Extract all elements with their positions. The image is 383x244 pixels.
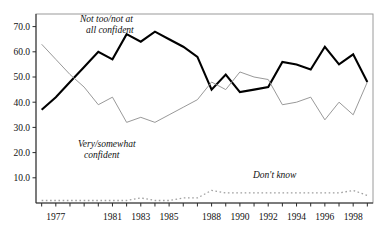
- x-tick-label: 1981: [103, 212, 122, 222]
- series-lines: [42, 32, 368, 201]
- y-tick-label: 70.0: [13, 22, 30, 32]
- series-line: [42, 190, 368, 200]
- x-tick-label: 1983: [131, 212, 150, 222]
- series-annotation-label: Don't know: [252, 170, 297, 180]
- series-annotation-label: Very/somewhat: [78, 139, 136, 149]
- x-tick-label: 1994: [287, 212, 306, 222]
- series-annotation-label: confident: [84, 150, 120, 160]
- x-tick-label: 1998: [344, 212, 363, 222]
- y-tick-label: 60.0: [13, 47, 30, 57]
- x-tick-label: 1988: [202, 212, 221, 222]
- line-chart: 10.020.030.040.050.060.070.0 19771981198…: [0, 0, 383, 244]
- x-axis: 1977198119831985198819901992199419961998: [36, 203, 373, 222]
- y-tick-label: 30.0: [13, 123, 30, 133]
- y-tick-label: 40.0: [13, 98, 30, 108]
- chart-container: 10.020.030.040.050.060.070.0 19771981198…: [0, 0, 383, 244]
- x-tick-label: 1990: [230, 212, 249, 222]
- x-tick-label: 1985: [160, 212, 179, 222]
- series-annotation-label: Not too/not at: [79, 14, 133, 24]
- x-tick-label: 1977: [46, 212, 65, 222]
- series-line: [42, 32, 368, 110]
- y-tick-label: 10.0: [13, 173, 30, 183]
- series-annotations: Not too/not atall confidentVery/somewhat…: [78, 14, 297, 180]
- y-tick-label: 50.0: [13, 72, 30, 82]
- series-annotation-label: all confident: [86, 25, 134, 35]
- x-tick-label: 1992: [259, 212, 278, 222]
- y-tick-label: 20.0: [13, 148, 30, 158]
- x-tick-label: 1996: [315, 212, 334, 222]
- y-axis: 10.020.030.040.050.060.070.0: [13, 14, 36, 203]
- plot-frame: [36, 14, 373, 203]
